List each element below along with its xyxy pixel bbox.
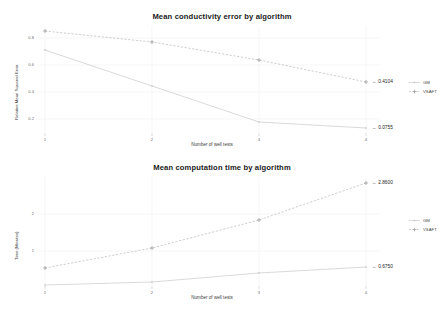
legend-label-gm: GM [423, 80, 430, 85]
series-markers-gm [44, 49, 367, 129]
x-axis-title: Number of well tests [152, 142, 272, 147]
endpoint-label-gm: ← 0.0755 [372, 125, 393, 130]
series-line-gm [45, 267, 366, 285]
endpoint-label-gm: ← 0.6750 [372, 264, 393, 269]
x-tick-label: 1 [39, 137, 51, 142]
y-axis-title: Time (Minutes) [14, 232, 19, 261]
legend-swatch-vsaft-icon [409, 89, 420, 94]
y-tick-label: 2 [18, 211, 34, 216]
series-markers-vsaft [43, 181, 368, 270]
figure-canvas: Mean conductivity error by algorithm [0, 0, 444, 317]
series-markers-gm [44, 266, 367, 286]
legend-swatch-gm-icon [409, 80, 420, 85]
endpoint-label-vsaft: ← 2.8600 [372, 180, 393, 185]
legend-item-gm[interactable]: GM [409, 80, 437, 85]
y-tick-label: 0.8 [18, 35, 34, 40]
series-markers-vsaft [43, 29, 368, 84]
endpoint-label-vsaft: ← 0.4104 [372, 79, 393, 84]
chart-panel-computation-time: Mean computation time by algorithm [0, 155, 444, 317]
legend-item-gm[interactable]: GM [409, 218, 437, 223]
chart-panel-conductivity-error: Mean conductivity error by algorithm [0, 0, 444, 155]
x-tick-label: 4 [360, 290, 372, 295]
y-tick-label: 0.6 [18, 62, 34, 67]
legend-label-gm: GM [423, 218, 430, 223]
legend-label-vsaft: VSAFT [423, 89, 437, 94]
x-tick-label: 1 [39, 290, 51, 295]
legend-item-vsaft[interactable]: VSAFT [409, 89, 437, 94]
y-tick-label: 0.2 [18, 116, 34, 121]
x-axis-title: Number of well tests [152, 295, 272, 300]
legend-swatch-vsaft-icon [409, 227, 420, 232]
x-tick-label: 4 [360, 137, 372, 142]
plot-area-conductivity-error [0, 0, 444, 155]
series-line-gm [45, 50, 366, 128]
legend-conductivity-error: GM VSAFT [409, 80, 437, 94]
y-tick-label: 0.4 [18, 89, 34, 94]
legend-swatch-gm-icon [409, 218, 420, 223]
series-line-vsaft [45, 183, 366, 268]
legend-label-vsaft: VSAFT [423, 227, 437, 232]
legend-item-vsaft[interactable]: VSAFT [409, 227, 437, 232]
y-tick-label: 1 [18, 248, 34, 253]
y-axis-title: Relative Mean Squared Error [14, 64, 19, 120]
series-line-vsaft [45, 31, 366, 82]
legend-computation-time: GM VSAFT [409, 218, 437, 232]
